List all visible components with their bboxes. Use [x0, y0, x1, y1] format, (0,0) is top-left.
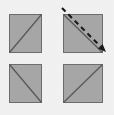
quadrant-bottom-left	[10, 65, 42, 103]
quadrant-top-right	[64, 15, 103, 53]
figure-container: Square divided into four shaded sub-squa…	[0, 0, 114, 115]
quadrant-bottom-right	[64, 65, 103, 103]
geometric-figure	[0, 0, 114, 115]
quadrant-top-left	[10, 15, 42, 53]
